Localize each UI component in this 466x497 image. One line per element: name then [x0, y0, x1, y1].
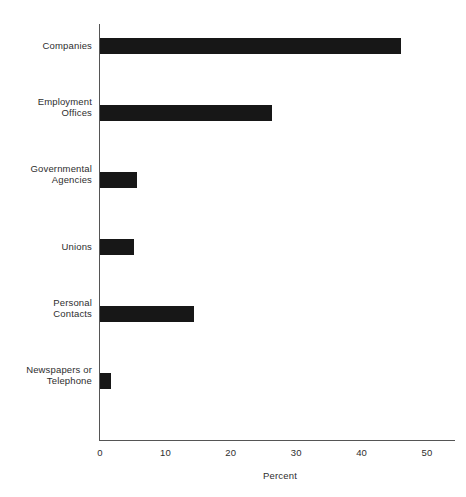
- bar-row: [100, 38, 401, 54]
- x-tick-label-20: 20: [211, 447, 251, 459]
- bar-chart: Companies Employment Offices Governmenta…: [0, 0, 466, 497]
- bar-row: [100, 373, 111, 389]
- x-tick-label-50: 50: [407, 447, 447, 459]
- x-tick-label-30: 30: [276, 447, 316, 459]
- bar-unions: [100, 239, 134, 255]
- bar-row: [100, 172, 137, 188]
- category-label-governmental-agencies: Governmental Agencies: [0, 163, 92, 186]
- x-tick-label-10: 10: [145, 447, 185, 459]
- bar-companies: [100, 38, 401, 54]
- bar-row: [100, 105, 272, 121]
- bar-personal-contacts: [100, 306, 194, 322]
- x-axis-title: Percent: [0, 470, 466, 481]
- figure-caption: [0, 487, 466, 497]
- x-axis-title-text: Percent: [263, 470, 297, 481]
- category-label-newspapers-or-telephone: Newspapers or Telephone: [0, 364, 92, 387]
- bar-newspapers-or-telephone: [100, 373, 111, 389]
- bar-employment-offices: [100, 105, 272, 121]
- x-tick-label-40: 40: [342, 447, 382, 459]
- x-axis-line: [99, 440, 455, 441]
- category-label-companies: Companies: [0, 40, 92, 52]
- bar-row: [100, 306, 194, 322]
- x-tick-label-0: 0: [80, 447, 120, 459]
- category-label-unions: Unions: [0, 241, 92, 253]
- bar-governmental-agencies: [100, 172, 137, 188]
- bar-row: [100, 239, 134, 255]
- category-label-employment-offices: Employment Offices: [0, 96, 92, 119]
- category-label-personal-contacts: Personal Contacts: [0, 297, 92, 320]
